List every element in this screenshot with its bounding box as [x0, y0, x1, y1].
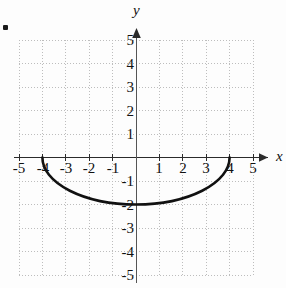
y-tick--2: -2	[122, 196, 135, 213]
x-axis-label: x	[276, 148, 283, 165]
y-tick--1: -1	[122, 173, 135, 190]
y-tick-2: 2	[127, 102, 135, 119]
y-tick--5: -5	[122, 267, 135, 284]
graph-figure: y x -5 -4 -3 -2 -1 1 2 3 4 5 5 4 3 2 1 -…	[0, 0, 286, 288]
coordinate-plane	[0, 0, 286, 288]
y-tick-1: 1	[127, 126, 135, 143]
x-tick-5: 5	[249, 160, 257, 177]
x-tick--3: -3	[60, 160, 73, 177]
y-axis-label: y	[133, 2, 140, 19]
x-tick-1: 1	[155, 160, 163, 177]
x-tick-3: 3	[202, 160, 210, 177]
x-tick-2: 2	[179, 160, 187, 177]
y-tick-3: 3	[127, 79, 135, 96]
y-tick--4: -4	[122, 243, 135, 260]
x-tick--2: -2	[83, 160, 96, 177]
x-tick--5: -5	[13, 160, 26, 177]
y-tick-4: 4	[127, 55, 135, 72]
x-tick-4: 4	[226, 160, 234, 177]
y-tick-5: 5	[127, 32, 135, 49]
y-tick--3: -3	[122, 220, 135, 237]
x-tick--4: -4	[37, 160, 50, 177]
x-tick--1: -1	[107, 160, 120, 177]
